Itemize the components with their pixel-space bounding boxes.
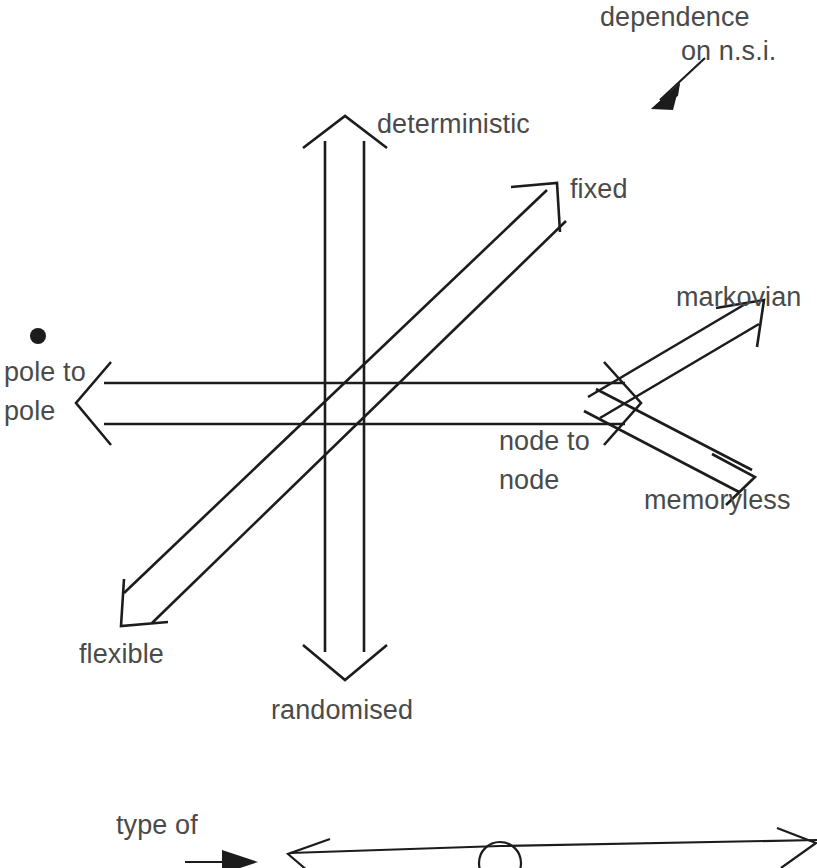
label-dependence-line1: dependence xyxy=(600,0,750,34)
pole-to-pole-bullet xyxy=(30,328,46,344)
label-deterministic: deterministic xyxy=(377,107,530,141)
label-pole-to-line1: pole to xyxy=(4,355,86,389)
label-randomised: randomised xyxy=(271,693,413,727)
diagonal-axis-band xyxy=(121,183,566,626)
type-of-pointer-arrow xyxy=(185,850,258,868)
label-memoryless: memoryless xyxy=(644,483,791,517)
diagram-root: dependence on n.s.i. deterministic fixed… xyxy=(0,0,817,868)
label-flexible: flexible xyxy=(79,637,164,671)
label-node-to-line2: node xyxy=(499,463,559,497)
label-type-of: type of xyxy=(116,808,198,842)
type-of-flow-scale xyxy=(288,828,817,868)
vertical-axis-band xyxy=(303,116,387,680)
markovian-branch-band xyxy=(588,300,764,418)
label-node-to-line1: node to xyxy=(499,424,590,458)
label-dependence-line2: on n.s.i. xyxy=(681,34,776,68)
label-pole-to-line2: pole xyxy=(4,394,55,428)
label-fixed: fixed xyxy=(570,172,628,206)
label-markovian: markovian xyxy=(676,280,801,314)
